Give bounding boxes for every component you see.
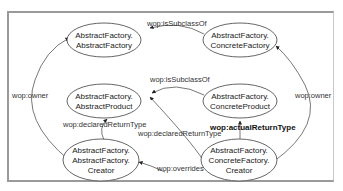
node-abstractfactory-abstractfactory[interactable]: AbstractFactory. AbstractFactory bbox=[67, 23, 141, 57]
label-actualreturntype: wop:actualReturnType bbox=[209, 123, 296, 132]
edge-owner-right bbox=[273, 46, 311, 162]
svg-text:ConcreteProduct: ConcreteProduct bbox=[210, 102, 271, 111]
node-abstractfactory-concretefactory-creator[interactable]: AbstractFactory. ConcreteFactory. Creato… bbox=[201, 139, 277, 181]
svg-text:AbstractFactory.: AbstractFactory. bbox=[72, 156, 130, 165]
edge-issubclassof-product bbox=[152, 87, 204, 95]
svg-text:Creator: Creator bbox=[88, 166, 115, 175]
label-issubclassof-top: wop:isSubclassOf bbox=[146, 19, 208, 28]
svg-text:AbstractFactory: AbstractFactory bbox=[76, 41, 132, 50]
label-issubclassof-middle: wop:isSubclassOf bbox=[149, 75, 211, 84]
svg-text:Creator: Creator bbox=[226, 166, 253, 175]
label-declaredreturntype-left: wop:declaredReturnType bbox=[62, 120, 146, 129]
svg-text:ConcreteFactory.: ConcreteFactory. bbox=[209, 156, 270, 165]
svg-text:AbstractProduct: AbstractProduct bbox=[76, 102, 134, 111]
svg-text:AbstractFactory.: AbstractFactory. bbox=[72, 146, 130, 155]
svg-text:AbstractFactory.: AbstractFactory. bbox=[211, 31, 269, 40]
svg-text:AbstractFactory.: AbstractFactory. bbox=[210, 146, 268, 155]
label-owner-left: wop:owner bbox=[11, 91, 49, 100]
svg-text:AbstractFactory.: AbstractFactory. bbox=[211, 92, 269, 101]
node-abstractfactory-concreteproduct[interactable]: AbstractFactory. ConcreteProduct bbox=[203, 84, 277, 118]
label-overrides: wop:overrides bbox=[156, 164, 204, 173]
node-abstractfactory-abstractproduct[interactable]: AbstractFactory. AbstractProduct bbox=[67, 84, 141, 118]
node-abstractfactory-concretefactory[interactable]: AbstractFactory. ConcreteFactory bbox=[203, 23, 277, 57]
node-abstractfactory-abstractfactory-creator[interactable]: AbstractFactory. AbstractFactory. Creato… bbox=[63, 139, 139, 181]
svg-text:AbstractFactory.: AbstractFactory. bbox=[75, 92, 133, 101]
rdf-graph: AbstractFactory. AbstractFactory Abstrac… bbox=[0, 0, 343, 191]
label-owner-right: wop:owner bbox=[294, 91, 332, 100]
label-declaredreturntype-right: wop:declaredReturnType bbox=[137, 129, 221, 138]
svg-text:AbstractFactory.: AbstractFactory. bbox=[75, 31, 133, 40]
svg-text:ConcreteFactory: ConcreteFactory bbox=[210, 41, 269, 50]
